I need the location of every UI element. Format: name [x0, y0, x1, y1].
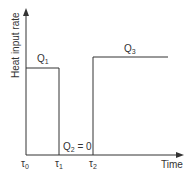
- segment-label-q1: Q1: [37, 53, 49, 65]
- x-axis-arrow-icon: [176, 152, 184, 158]
- q1-step: [26, 68, 59, 155]
- tick-label-tau0: τ0: [21, 158, 29, 170]
- x-axis-label: Time: [161, 159, 183, 170]
- segment-label-q3: Q3: [124, 43, 136, 55]
- y-axis-label: Heat input rate: [10, 12, 21, 78]
- y-axis-arrow-icon: [23, 8, 29, 16]
- heat-input-diagram: Heat input rate Time Q1 Q2 = 0 Q3 τ0 τ1 …: [0, 0, 191, 177]
- tick-label-tau1: τ1: [55, 158, 63, 170]
- segment-label-q2: Q2 = 0: [63, 141, 92, 153]
- tick-label-tau2: τ2: [89, 158, 97, 170]
- q3-step: [93, 57, 168, 155]
